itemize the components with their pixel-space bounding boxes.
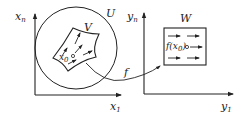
mapping-f-label: f: [124, 67, 128, 78]
point-x0-label: x0: [59, 53, 69, 64]
region-v-shape: [53, 28, 99, 71]
x-1-axis-label: x1: [110, 101, 121, 114]
region-u-label: U: [106, 8, 115, 19]
point-f-x0-label: f(x0): [166, 42, 186, 53]
region-u-circle: [35, 7, 117, 89]
left-axes: [35, 14, 121, 95]
mapping-f-curve: [86, 63, 160, 81]
mapping-diagram: xn x1 U V x0 f yn y1 W f(x0): [0, 0, 241, 117]
y-1-axis-label: y1: [221, 101, 232, 114]
y-n-axis-label: yn: [127, 11, 138, 24]
point-x0: [71, 54, 74, 57]
region-w-label: W: [180, 13, 191, 24]
right-axes: [144, 13, 233, 94]
region-v-label: V: [84, 22, 92, 33]
diagram-canvas: [0, 0, 241, 117]
x-n-axis-label: xn: [15, 11, 26, 24]
